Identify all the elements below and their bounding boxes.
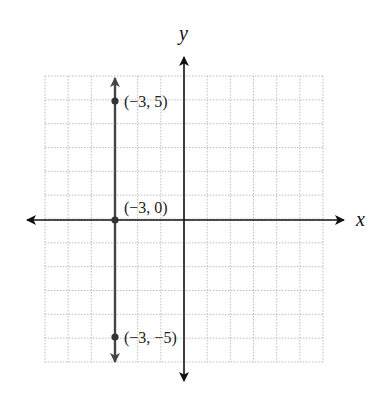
point-neg3-0 [111,216,118,223]
coordinate-plane: x y (−3, 5) (−3, 0) (−3, −5) [0,0,392,396]
label-point-neg3-neg5: (−3, −5) [124,329,177,347]
label-point-neg3-0: (−3, 0) [124,199,168,217]
point-neg3-5 [111,97,118,104]
y-axis-label: y [177,22,188,45]
label-point-neg3-5: (−3, 5) [124,93,168,111]
x-axis-label: x [355,208,365,230]
point-neg3-neg5 [111,333,118,340]
